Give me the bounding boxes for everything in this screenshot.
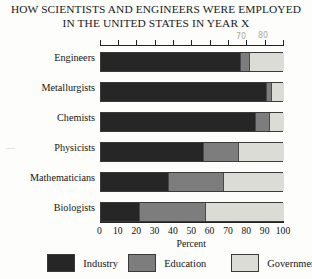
bar-segment-government bbox=[249, 53, 284, 71]
bar-row bbox=[100, 112, 284, 132]
bar-segment-government bbox=[269, 113, 284, 131]
bar-segment-government bbox=[223, 173, 284, 191]
bar-segment-education bbox=[255, 113, 270, 131]
x-tick-top bbox=[173, 40, 174, 46]
bar-segment-industry bbox=[101, 203, 140, 221]
category-label-biologists: Biologists bbox=[0, 202, 95, 213]
legend-swatch-education bbox=[128, 254, 156, 272]
legend-item-industry[interactable]: Industry bbox=[47, 252, 118, 274]
bar-segment-education bbox=[240, 53, 249, 71]
x-tick-top bbox=[136, 40, 137, 46]
axis-x-label: Percent bbox=[100, 238, 284, 249]
x-tick-top bbox=[191, 40, 192, 46]
bar-row bbox=[100, 202, 284, 222]
legend-swatch-government bbox=[231, 254, 259, 272]
bar-row bbox=[100, 142, 284, 162]
bar-segment-education bbox=[168, 173, 223, 191]
bar-row bbox=[100, 52, 284, 72]
handwritten-note-80: 80 bbox=[258, 31, 268, 40]
category-label-mathematicians: Mathematicians bbox=[0, 172, 95, 183]
x-tick-top bbox=[210, 40, 211, 46]
x-tick-top bbox=[246, 40, 247, 46]
bar-segment-industry bbox=[101, 83, 266, 101]
legend-label: Education bbox=[164, 258, 206, 269]
bar-segment-industry bbox=[101, 113, 255, 131]
bar-segment-government bbox=[238, 143, 284, 161]
x-tick-top bbox=[283, 40, 284, 46]
x-tick-top bbox=[265, 40, 266, 46]
category-label-chemists: Chemists bbox=[0, 112, 95, 123]
bar-row bbox=[100, 82, 284, 102]
page-title: HOW SCIENTISTS AND ENGINEERS WERE EMPLOY… bbox=[0, 2, 312, 30]
legend-swatch-industry bbox=[47, 254, 75, 272]
bar-segment-industry bbox=[101, 53, 240, 71]
x-tick-top bbox=[228, 40, 229, 46]
bar-segment-education bbox=[203, 143, 238, 161]
category-label-metallurgists: Metallurgists bbox=[0, 82, 95, 93]
chart-figure: HOW SCIENTISTS AND ENGINEERS WERE EMPLOY… bbox=[0, 0, 312, 279]
category-label-engineers: Engineers bbox=[0, 52, 95, 63]
category-label-physicists: Physicists bbox=[0, 142, 95, 153]
x-tick-top bbox=[100, 40, 101, 46]
bar-segment-government bbox=[271, 83, 284, 101]
plot-area: 0102030405060708090100 Percent bbox=[100, 46, 284, 222]
x-tick-label: 100 bbox=[271, 225, 295, 236]
legend-label: Government bbox=[267, 258, 312, 269]
legend: IndustryEducationGovernment bbox=[0, 252, 312, 276]
x-tick-top bbox=[118, 40, 119, 46]
bar-segment-government bbox=[205, 203, 284, 221]
legend-label: Industry bbox=[83, 258, 118, 269]
legend-item-government[interactable]: Government bbox=[231, 252, 312, 274]
title-line-1: HOW SCIENTISTS AND ENGINEERS WERE EMPLOY… bbox=[0, 2, 312, 16]
bar-row bbox=[100, 172, 284, 192]
bar-segment-industry bbox=[101, 173, 169, 191]
legend-item-education[interactable]: Education bbox=[128, 252, 206, 274]
handwritten-note-70: 70 bbox=[236, 32, 246, 41]
title-line-2: IN THE UNITED STATES IN YEAR X bbox=[0, 16, 312, 30]
bar-segment-education bbox=[139, 203, 205, 221]
x-tick-top bbox=[155, 40, 156, 46]
bar-segment-industry bbox=[101, 143, 204, 161]
